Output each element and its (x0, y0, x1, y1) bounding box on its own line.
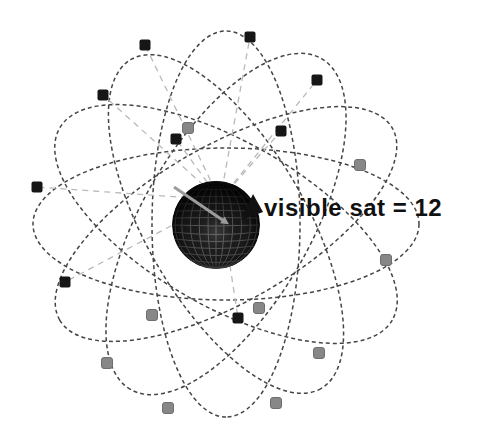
satellite-marker-visible (60, 277, 71, 288)
satellite-marker-hidden (381, 255, 392, 266)
gps-constellation-figure: visible sat = 12 (0, 0, 479, 438)
satellite-marker-visible (312, 75, 323, 86)
satellite-marker-hidden (254, 303, 265, 314)
sightline-ray (220, 37, 250, 200)
satellite-marker-hidden (183, 123, 194, 134)
satellite-marker-visible (276, 126, 287, 137)
satellite-marker-visible (98, 90, 109, 101)
satellite-marker-visible (171, 134, 182, 145)
visible-sat-label: visible sat = 12 (264, 194, 442, 221)
satellite-marker-hidden (314, 348, 325, 359)
satellite-marker-visible (32, 182, 43, 193)
satellite-marker-hidden (147, 310, 158, 321)
satellite-marker-hidden (102, 358, 113, 369)
satellite-marker-visible (140, 40, 151, 51)
satellite-marker-hidden (163, 403, 174, 414)
satellite-marker-visible (245, 32, 256, 43)
sightline-ray (220, 80, 317, 200)
constellation-canvas: visible sat = 12 (0, 0, 479, 438)
satellites-visible (32, 32, 323, 324)
satellite-marker-hidden (355, 160, 366, 171)
satellite-marker-visible (233, 313, 244, 324)
satellite-marker-hidden (271, 398, 282, 409)
satellites-hidden (102, 123, 392, 414)
